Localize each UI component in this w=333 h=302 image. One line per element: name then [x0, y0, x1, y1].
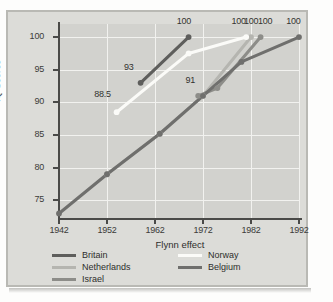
page-background: 1942195219621972198219927580859095100 10…: [0, 0, 333, 302]
data-point-belgium: [296, 34, 302, 40]
data-point-belgium: [104, 171, 110, 177]
data-point-belgium: [157, 131, 163, 137]
point-value-label: 100: [286, 16, 300, 26]
point-value-label: 88.5: [94, 89, 111, 99]
legend-item-britain: Britain: [52, 249, 131, 261]
data-point-belgium: [56, 211, 62, 217]
data-point-britain: [186, 34, 192, 40]
legend-swatch-icon: [52, 266, 76, 269]
legend-item-netherlands: Netherlands: [52, 261, 131, 273]
data-point-israel: [215, 85, 221, 91]
legend-item-israel: Israel: [52, 273, 131, 285]
data-point-norway: [186, 51, 192, 57]
series-line-netherlands: [107, 37, 251, 174]
legend-column-right: NorwayBelgium: [178, 249, 241, 273]
series-line-belgium: [59, 37, 299, 213]
data-point-belgium: [239, 59, 245, 65]
point-value-label: 100: [177, 16, 191, 26]
point-value-label: 100: [258, 16, 272, 26]
legend-label: Belgium: [208, 261, 241, 273]
legend-label: Netherlands: [82, 261, 131, 273]
legend-swatch-icon: [178, 254, 202, 257]
y-axis-title: IQ Scores: [0, 60, 2, 102]
series-line-israel: [198, 37, 260, 96]
legend-label: Israel: [82, 273, 104, 285]
legend-item-norway: Norway: [178, 249, 241, 261]
point-value-label: 91: [185, 75, 195, 85]
data-point-belgium: [200, 93, 206, 99]
data-point-norway: [114, 109, 120, 115]
legend-swatch-icon: [52, 254, 76, 257]
legend-label: Britain: [82, 249, 108, 261]
legend-label: Norway: [208, 249, 239, 261]
point-value-label: 93: [124, 62, 134, 72]
data-point-israel: [258, 34, 264, 40]
legend-item-belgium: Belgium: [178, 261, 241, 273]
figure-card: 1942195219621972198219927580859095100 10…: [6, 10, 308, 287]
legend-swatch-icon: [52, 278, 76, 281]
point-value-label: 100: [244, 16, 258, 26]
legend-swatch-icon: [178, 266, 202, 269]
data-point-norway: [243, 34, 249, 40]
data-point-britain: [138, 80, 144, 86]
legend-column-left: BritainNetherlandsIsrael: [52, 249, 131, 285]
